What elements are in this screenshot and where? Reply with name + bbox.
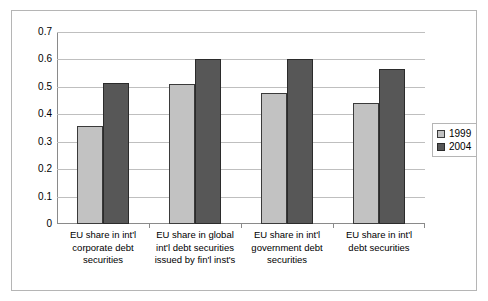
bar-1999-group-2[interactable]	[169, 84, 195, 224]
x-axis-tick	[149, 224, 150, 228]
bar-1999-group-1[interactable]	[77, 126, 103, 224]
category-label-line: government debt	[241, 242, 333, 255]
bar-2004-group-3[interactable]	[287, 59, 313, 224]
x-axis-category-labels: EU share in int'lcorporate debtsecuritie…	[57, 229, 425, 279]
category-label-4: EU share in int'ldebt securities	[333, 229, 425, 254]
category-label-line: issued by fin'l inst's	[149, 254, 241, 267]
legend-label-1999: 1999	[449, 128, 471, 139]
category-label-line: debt securities	[333, 242, 425, 255]
category-label-line: EU share in int'l	[333, 229, 425, 242]
y-tick-label: 0.3	[18, 137, 52, 147]
bar-2004-group-1[interactable]	[103, 83, 129, 224]
bar-2004-group-2[interactable]	[195, 59, 221, 224]
legend-swatch-2004	[437, 143, 445, 151]
x-axis-tick	[424, 224, 425, 228]
category-label-line: EU share in global	[149, 229, 241, 242]
category-label-line: int'l debt securities	[149, 242, 241, 255]
legend-label-2004: 2004	[449, 141, 471, 152]
bar-group	[241, 32, 333, 224]
y-tick-label: 0	[18, 219, 52, 229]
category-label-line: corporate debt	[57, 242, 149, 255]
category-label-line: EU share in int'l	[241, 229, 333, 242]
y-tick-label: 0.6	[18, 54, 52, 64]
y-tick-label: 0.4	[18, 109, 52, 119]
category-label-1: EU share in int'lcorporate debtsecuritie…	[57, 229, 149, 267]
category-label-3: EU share in int'lgovernment debtsecuriti…	[241, 229, 333, 267]
x-axis-tick	[241, 224, 242, 228]
legend-item-2004: 2004	[437, 140, 471, 153]
category-label-line: EU share in int'l	[57, 229, 149, 242]
chart-legend: 1999 2004	[432, 123, 477, 157]
y-tick-label: 0.5	[18, 82, 52, 92]
bar-2004-group-4[interactable]	[379, 69, 405, 224]
legend-swatch-1999	[437, 130, 445, 138]
chart-frame: 00.10.20.30.40.50.60.7 EU share in int'l…	[11, 10, 477, 291]
bar-group	[149, 32, 241, 224]
legend-item-1999: 1999	[437, 127, 471, 140]
y-axis-tick-labels: 00.10.20.30.40.50.60.7	[12, 32, 52, 224]
x-axis-tick	[333, 224, 334, 228]
category-label-2: EU share in globalint'l debt securitiesi…	[149, 229, 241, 267]
bar-group	[333, 32, 425, 224]
y-tick-label: 0.7	[18, 27, 52, 37]
plot-area	[57, 32, 425, 224]
y-tick-label: 0.1	[18, 192, 52, 202]
category-label-line: securities	[241, 254, 333, 267]
category-label-line: securities	[57, 254, 149, 267]
bar-1999-group-4[interactable]	[353, 103, 379, 224]
bar-group	[57, 32, 149, 224]
bar-1999-group-3[interactable]	[261, 93, 287, 224]
y-tick-label: 0.2	[18, 164, 52, 174]
